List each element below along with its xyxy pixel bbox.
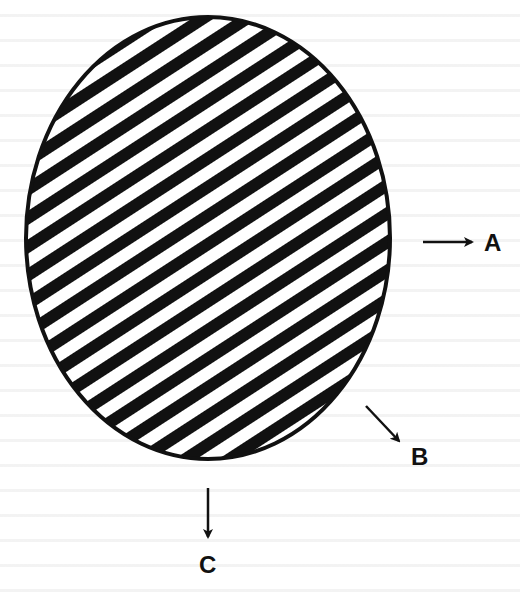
label-b: B: [411, 445, 428, 469]
hatched-ellipse: [26, 17, 390, 459]
label-c: C: [199, 553, 216, 577]
arrow-b-diagonal-icon: [366, 406, 399, 441]
label-a: A: [484, 231, 501, 255]
hatched-ellipse-diagram: [0, 0, 520, 595]
